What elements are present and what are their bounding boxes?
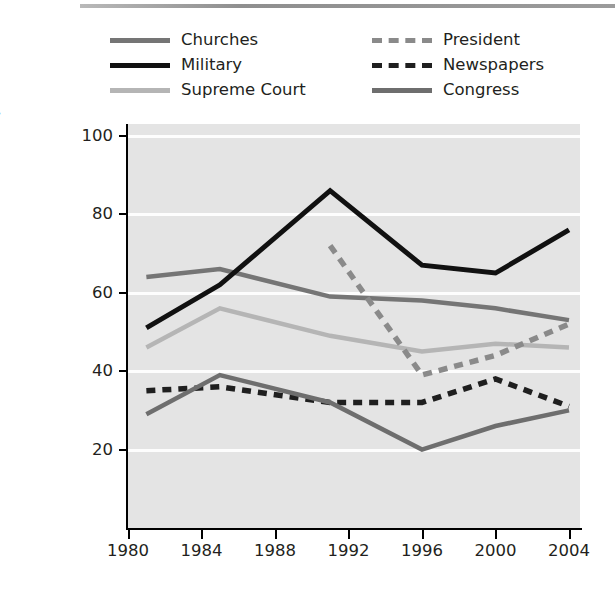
y-tick-label: 80 [73,204,113,223]
series-line-military [146,191,569,328]
legend-label: Churches [181,32,258,49]
y-tick [119,370,127,372]
legend-item-newspapers: Newspapers [372,53,544,78]
legend-item-military: Military [110,53,306,78]
legend-column-right: PresidentNewspapersCongress [372,28,544,103]
legend-column-left: ChurchesMilitarySupreme Court [110,28,306,103]
legend-swatch-icon [372,88,432,93]
series-line-congress [146,375,569,450]
series-lines [128,124,580,528]
legend-item-president: President [372,28,544,53]
y-tick-label: 60 [73,283,113,302]
x-tick [569,530,571,539]
legend-item-supreme-court: Supreme Court [110,78,306,103]
x-tick [275,530,277,539]
series-line-newspapers [146,379,569,406]
legend-swatch-icon [110,38,170,43]
y-tick-label: 100 [73,126,113,145]
y-tick-label: 20 [73,440,113,459]
legend-swatch-icon [372,38,432,43]
y-tick [119,292,127,294]
y-tick [119,135,127,137]
y-tick-label: 40 [73,361,113,380]
x-tick-label: 1996 [392,541,452,560]
x-tick-label: 1984 [171,541,231,560]
x-tick [495,530,497,539]
x-tick-label: 1992 [318,541,378,560]
legend-swatch-icon [110,88,170,93]
legend-item-congress: Congress [372,78,544,103]
legend-swatch-icon [372,63,432,68]
legend-label: Congress [443,82,519,99]
page-top-rule [80,4,615,8]
x-axis-line [126,528,582,530]
y-axis-line [126,124,128,530]
legend-label: Newspapers [443,57,544,74]
chart-legend: ChurchesMilitarySupreme Court PresidentN… [110,28,590,103]
x-tick-label: 1988 [245,541,305,560]
x-tick-label: 2004 [539,541,599,560]
x-tick [201,530,203,539]
legend-swatch-icon [110,63,170,68]
y-tick [119,449,127,451]
legend-item-churches: Churches [110,28,306,53]
x-tick [128,530,130,539]
legend-label: Military [181,57,242,74]
x-tick [422,530,424,539]
y-axis-title-line2: or “quite a lot” of confidence [0,0,2,150]
y-tick [119,213,127,215]
x-tick-label: 1980 [98,541,158,560]
x-tick [348,530,350,539]
legend-label: President [443,32,520,49]
series-line-president [330,246,569,375]
legend-label: Supreme Court [181,82,306,99]
series-line-supreme-court [146,308,569,351]
x-tick-label: 2000 [465,541,525,560]
